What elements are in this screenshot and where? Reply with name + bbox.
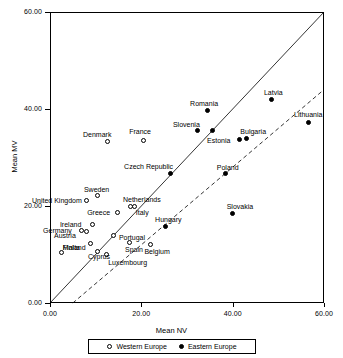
data-point[interactable]	[115, 210, 120, 215]
legend-label-western-europe: Western Europe	[116, 343, 166, 350]
y-tick-mark	[45, 109, 50, 110]
x-tick-label: 20.00	[125, 310, 157, 317]
data-point-label: Romania	[190, 100, 218, 108]
data-point-label: Denmark	[83, 131, 111, 139]
x-tick-label: 0.00	[34, 310, 66, 317]
data-point-label: Belgium	[144, 248, 169, 256]
data-point-label: Greece	[87, 209, 110, 217]
data-point-label: Netherlands	[123, 196, 161, 204]
chart-legend: Western Europe Eastern Europe	[88, 339, 256, 354]
data-point-label: Estonia	[207, 137, 230, 145]
data-point-label: Latvia	[264, 89, 283, 97]
x-tick-mark	[324, 303, 325, 307]
filled-circle-icon	[179, 344, 184, 349]
data-point[interactable]	[237, 137, 242, 142]
data-point-label: Cyprus	[88, 253, 110, 261]
data-point-label: Bulgaria	[240, 128, 266, 136]
y-tick-label: 20.00	[8, 202, 42, 209]
data-point[interactable]	[244, 136, 249, 141]
y-axis-title: Mean MV	[10, 127, 19, 187]
data-point-label: Italy	[136, 209, 149, 217]
data-point-label: Poland	[217, 164, 239, 172]
data-point-label: Spain	[125, 246, 143, 254]
data-point-label: Slovakia	[227, 203, 253, 211]
data-point-label: Czech Republic	[124, 163, 173, 171]
x-tick-label: 40.00	[217, 310, 249, 317]
data-point-label: Hungary	[155, 216, 181, 224]
y-tick-label: 60.00	[8, 8, 42, 15]
y-tick-mark	[45, 12, 50, 13]
data-point-label: Portugal	[119, 234, 145, 242]
y-tick-label: 40.00	[8, 105, 42, 112]
y-tick-label: 0.00	[8, 299, 42, 306]
legend-item-western-europe[interactable]: Western Europe	[107, 343, 166, 350]
legend-label-eastern-europe: Eastern Europe	[188, 343, 237, 350]
y-tick-mark	[45, 303, 50, 304]
x-tick-mark	[233, 303, 234, 307]
data-point-label: France	[129, 128, 151, 136]
x-axis-title: Mean NV	[0, 326, 343, 335]
legend-item-eastern-europe[interactable]: Eastern Europe	[179, 343, 237, 350]
open-circle-icon	[107, 344, 112, 349]
data-point[interactable]	[141, 138, 146, 143]
data-point[interactable]	[168, 171, 173, 176]
data-point[interactable]	[210, 128, 215, 133]
x-tick-mark	[141, 303, 142, 307]
y-tick-mark	[45, 206, 50, 207]
x-tick-label: 60.00	[308, 310, 340, 317]
data-point-label: Luxembourg	[108, 259, 147, 267]
data-point-label: Lithuania	[294, 111, 322, 119]
x-tick-mark	[50, 303, 51, 307]
data-point-label: Malta	[63, 244, 80, 252]
data-point[interactable]	[163, 224, 168, 229]
data-point-label: Sweden	[84, 186, 109, 194]
data-point-label: Slovenia	[173, 121, 200, 129]
data-point-label: Austria	[54, 232, 76, 240]
data-point[interactable]	[306, 120, 311, 125]
chart-root: DenmarkFranceSwedenUnited KingdomNetherl…	[0, 0, 343, 358]
